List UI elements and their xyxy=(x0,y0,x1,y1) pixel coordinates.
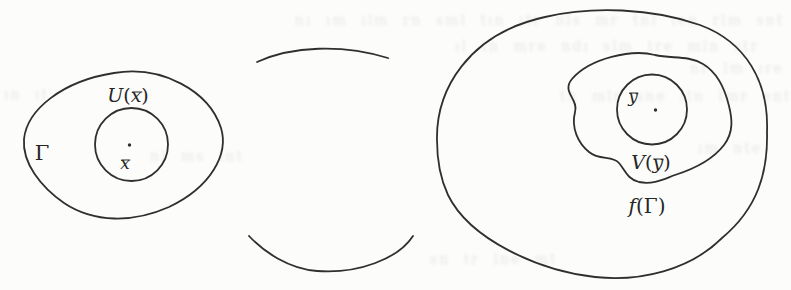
barred-var: y xyxy=(653,153,664,172)
left-point-dot xyxy=(128,143,131,146)
close-paren: ) xyxy=(663,151,670,173)
right-neighborhood-label: V(y) xyxy=(631,153,670,172)
right-point-dot xyxy=(654,108,657,111)
close-paren: ) xyxy=(141,84,148,106)
left-neighborhood-circle xyxy=(95,108,168,181)
left-point-label: x xyxy=(120,155,130,172)
region-arg: Γ xyxy=(644,194,658,218)
right-region-label: f(Γ) xyxy=(629,196,666,216)
barred-var: x xyxy=(120,155,130,172)
func-letter: V xyxy=(631,151,645,173)
func-letter: U xyxy=(107,84,123,106)
left-neighborhood-label: U(x) xyxy=(107,86,149,105)
barred-var: x xyxy=(131,86,142,105)
barred-var: y xyxy=(628,88,638,105)
close-paren: ) xyxy=(658,194,666,218)
right-point-label: y xyxy=(628,88,638,105)
inverse-map-arrow xyxy=(249,236,413,271)
open-paren: ( xyxy=(123,84,130,106)
right-region-outline xyxy=(437,10,767,278)
forward-map-arrow xyxy=(257,49,388,62)
left-region-label: Γ xyxy=(35,143,50,164)
